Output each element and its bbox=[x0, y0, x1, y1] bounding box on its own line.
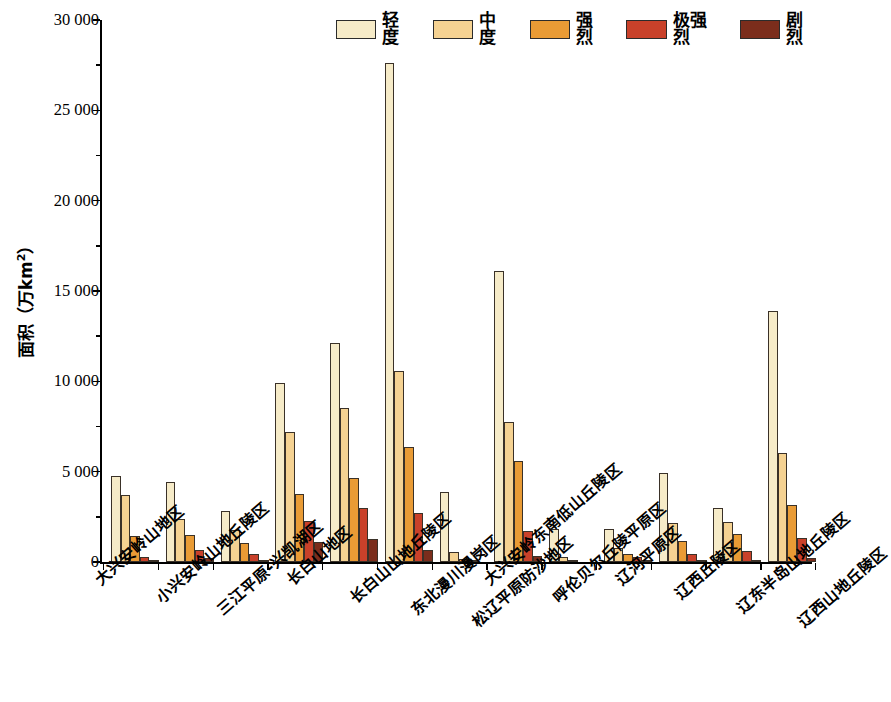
bar bbox=[713, 508, 723, 562]
bar bbox=[230, 530, 240, 562]
bar bbox=[768, 311, 778, 562]
bar bbox=[623, 554, 633, 562]
bar bbox=[742, 551, 752, 562]
bar bbox=[723, 522, 733, 562]
bar bbox=[175, 519, 185, 562]
y-tick-minor bbox=[96, 64, 100, 65]
x-tick bbox=[651, 563, 652, 570]
bar bbox=[604, 529, 614, 562]
bar bbox=[504, 422, 514, 562]
bar bbox=[349, 478, 359, 562]
bar bbox=[359, 508, 369, 562]
y-tick-label: 20 000 bbox=[9, 192, 99, 209]
bar bbox=[295, 494, 305, 562]
y-tick-label: 15 000 bbox=[9, 283, 99, 300]
bar bbox=[111, 476, 121, 562]
bar bbox=[259, 560, 269, 562]
x-tick bbox=[596, 563, 597, 570]
bar bbox=[385, 63, 395, 562]
x-tick bbox=[377, 563, 378, 570]
bar bbox=[568, 560, 578, 562]
bar bbox=[314, 542, 324, 562]
bar bbox=[523, 531, 533, 562]
bar bbox=[304, 521, 314, 562]
bar bbox=[140, 557, 150, 562]
y-tick-minor bbox=[96, 335, 100, 336]
x-tick bbox=[158, 563, 159, 570]
bar bbox=[678, 541, 688, 562]
bar bbox=[423, 550, 433, 562]
bar bbox=[166, 482, 176, 562]
bar bbox=[614, 548, 624, 562]
y-tick-label: 30 000 bbox=[9, 12, 99, 29]
y-tick-minor bbox=[96, 516, 100, 517]
x-tick bbox=[432, 563, 433, 570]
bar bbox=[340, 408, 350, 562]
bar bbox=[494, 271, 504, 562]
bar bbox=[404, 447, 414, 562]
y-tick-minor bbox=[96, 155, 100, 156]
bar bbox=[687, 554, 697, 562]
bar bbox=[368, 539, 378, 562]
x-tick bbox=[541, 563, 542, 570]
bar bbox=[121, 495, 131, 562]
y-tick-minor bbox=[96, 426, 100, 427]
bar bbox=[797, 538, 807, 562]
x-tick bbox=[213, 563, 214, 570]
bar bbox=[752, 560, 762, 562]
bar bbox=[642, 560, 652, 562]
bar bbox=[459, 559, 469, 562]
bar bbox=[130, 536, 140, 562]
bar bbox=[394, 371, 404, 563]
bar bbox=[440, 492, 450, 562]
bar bbox=[697, 560, 707, 562]
y-tick-label: 5 000 bbox=[9, 463, 99, 480]
bar bbox=[668, 523, 678, 562]
bar bbox=[559, 557, 569, 562]
bar bbox=[249, 554, 259, 562]
x-tick bbox=[322, 563, 323, 570]
y-tick-label: 0 bbox=[9, 554, 99, 571]
bar bbox=[633, 557, 643, 562]
bar bbox=[533, 556, 543, 562]
bar bbox=[414, 513, 424, 562]
y-tick-label: 25 000 bbox=[9, 102, 99, 119]
x-tick bbox=[267, 563, 268, 570]
bar bbox=[449, 552, 459, 562]
bar bbox=[204, 558, 214, 562]
x-tick bbox=[705, 563, 706, 570]
bar bbox=[149, 560, 159, 562]
x-tick bbox=[760, 563, 761, 570]
bar bbox=[221, 511, 231, 562]
bar bbox=[240, 543, 250, 562]
plot-area: 05 00010 00015 00020 00025 00030 000 bbox=[100, 20, 812, 562]
bar bbox=[275, 383, 285, 562]
x-tick bbox=[103, 563, 104, 570]
bar bbox=[659, 473, 669, 562]
bar bbox=[514, 461, 524, 562]
y-tick-label: 10 000 bbox=[9, 373, 99, 390]
bar bbox=[733, 534, 743, 562]
bar bbox=[285, 432, 295, 562]
bar bbox=[468, 560, 478, 562]
bar bbox=[549, 529, 559, 562]
bar bbox=[807, 558, 817, 562]
x-tick bbox=[486, 563, 487, 570]
bar bbox=[330, 343, 340, 562]
y-axis-line bbox=[100, 20, 102, 562]
y-tick-minor bbox=[96, 245, 100, 246]
bar bbox=[787, 505, 797, 562]
bar bbox=[195, 550, 205, 562]
x-tick bbox=[815, 563, 816, 570]
bar bbox=[185, 535, 195, 562]
bar bbox=[778, 453, 788, 562]
